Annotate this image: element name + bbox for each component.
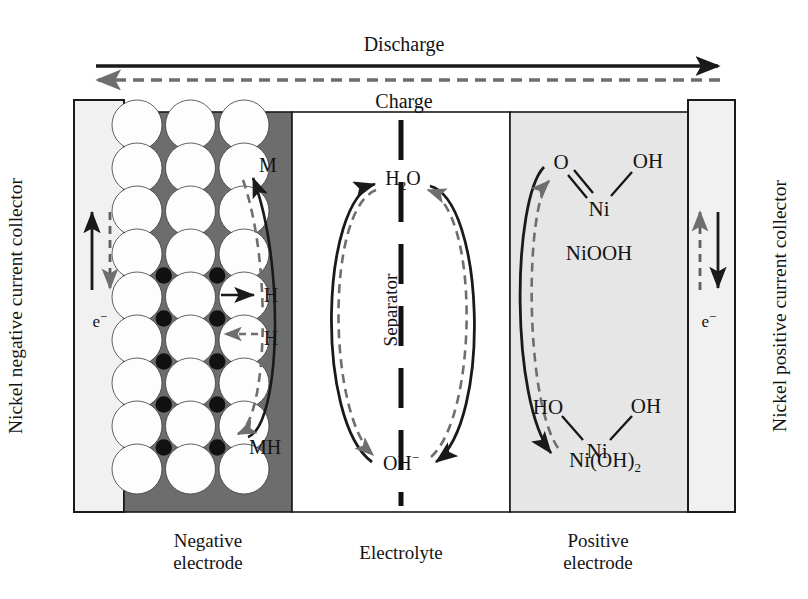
hydrogen-atom-dot (209, 396, 225, 412)
nioh2-atom-oh: OH (631, 396, 661, 417)
metal-hydride-label: MH (249, 437, 281, 457)
discharge-label: Discharge (364, 34, 445, 54)
negative-electrode-caption-line1: Negative (173, 530, 243, 552)
hydrogen-atom-dot (156, 353, 172, 369)
hydroxide-species-label: OH− (383, 451, 419, 473)
electrolyte-caption: Electrolyte (359, 542, 442, 564)
left-current-collector-label: Nickel negative current collector (5, 178, 27, 434)
metal-particle (166, 444, 216, 494)
left-electron-charge: − (100, 309, 107, 324)
metal-label: M (259, 155, 277, 175)
negative-electrode-particles (112, 100, 269, 494)
metal-particle (166, 186, 216, 236)
water-h: H (385, 167, 399, 189)
hydrogen-atom-dot (209, 310, 225, 326)
metal-particle (219, 100, 269, 150)
positive-electrode-caption-line1: Positive (563, 530, 633, 552)
metal-particle (112, 315, 162, 365)
nioh2-atom-ho: HO (533, 397, 563, 418)
metal-particle (112, 186, 162, 236)
hydrogen-atom-dot (209, 267, 225, 283)
metal-particle (112, 272, 162, 322)
hydrogen-atom-dot (156, 396, 172, 412)
water-o: O (406, 167, 420, 189)
positive-electrode-caption-line2: electrode (563, 552, 633, 574)
right-current-collector-label: Nickel positive current collector (769, 180, 791, 432)
metal-particle (166, 358, 216, 408)
negative-electrode-caption: Negative electrode (173, 530, 243, 574)
niooh-atom-ni: Ni (589, 199, 610, 220)
nioh2-base: Ni(OH) (569, 448, 634, 472)
metal-particle (166, 143, 216, 193)
hydroxide-oh: OH (383, 452, 412, 474)
metal-particle (219, 315, 269, 365)
right-current-collector-body (688, 100, 735, 512)
niooh-atom-oh: OH (633, 151, 663, 172)
right-electron-charge: − (709, 309, 716, 324)
charge-label: Charge (375, 91, 432, 111)
niooh-name-label: NiOOH (566, 243, 633, 264)
right-electron-label: e− (702, 310, 717, 331)
metal-particle (166, 100, 216, 150)
diagram-canvas: Discharge Charge Nickel negative current… (0, 0, 808, 599)
nioh2-sub: 2 (634, 460, 641, 475)
metal-particle (112, 229, 162, 279)
hydrogen-out-label: H (264, 285, 278, 305)
metal-particle (219, 186, 269, 236)
water-species-label: H2O (385, 168, 420, 192)
metal-particle (112, 100, 162, 150)
niooh-atom-o: O (553, 152, 568, 173)
hydrogen-in-label: H (264, 328, 278, 348)
hydrogen-atom-dot (156, 310, 172, 326)
positive-electrode-caption: Positive electrode (563, 530, 633, 574)
metal-particle (112, 143, 162, 193)
hydrogen-atom-dot (156, 439, 172, 455)
hydroxide-charge: − (412, 450, 419, 465)
metal-particle (112, 358, 162, 408)
separator-label: Separator (380, 274, 402, 347)
metal-particle (112, 444, 162, 494)
metal-particle (166, 315, 216, 365)
negative-electrode-caption-line2: electrode (173, 552, 243, 574)
left-electron-label: e− (93, 310, 108, 331)
nioh2-name-label: Ni(OH)2 (569, 450, 641, 474)
hydrogen-atom-dot (209, 353, 225, 369)
hydrogen-atom-dot (209, 439, 225, 455)
hydrogen-atom-dot (156, 267, 172, 283)
metal-particle (166, 401, 216, 451)
metal-particle (166, 272, 216, 322)
metal-particle (166, 229, 216, 279)
left-electron-symbol: e (93, 312, 101, 331)
metal-particle (112, 401, 162, 451)
right-electron-symbol: e (702, 312, 710, 331)
